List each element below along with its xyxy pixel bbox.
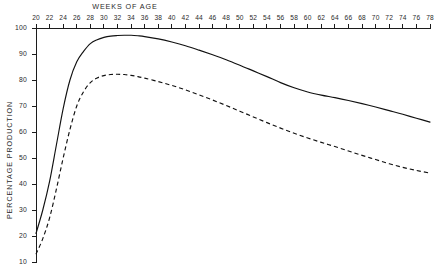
x-tick-label: 76 <box>413 14 421 21</box>
y-tick-label: 20 <box>19 232 27 239</box>
x-tick-label: 64 <box>331 14 339 21</box>
x-tick-label: 66 <box>345 14 353 21</box>
series-path-lower-curve <box>36 74 430 254</box>
x-tick-label: 50 <box>236 14 244 21</box>
x-tick-label: 74 <box>399 14 407 21</box>
y-tick-label: 50 <box>19 154 27 161</box>
production-line-chart: WEEKS OF AGE PERCENTAGE PRODUCTION 20222… <box>0 0 443 268</box>
y-tick-label: 60 <box>19 128 27 135</box>
x-tick-label: 60 <box>304 14 312 21</box>
x-tick-label: 70 <box>372 14 380 21</box>
x-tick-label: 58 <box>290 14 298 21</box>
x-axis-tick-marks <box>36 24 430 29</box>
y-tick-label: 80 <box>19 76 27 83</box>
x-tick-label: 68 <box>358 14 366 21</box>
x-tick-label: 20 <box>32 14 40 21</box>
x-tick-label: 40 <box>168 14 176 21</box>
x-tick-label: 46 <box>209 14 217 21</box>
x-tick-label: 36 <box>141 14 149 21</box>
x-tick-label: 78 <box>426 14 434 21</box>
y-tick-label: 10 <box>19 258 27 265</box>
x-tick-label: 56 <box>277 14 285 21</box>
y-axis-tick-marks <box>32 28 37 262</box>
x-axis-title: WEEKS OF AGE <box>92 2 158 11</box>
x-tick-label: 72 <box>385 14 393 21</box>
x-tick-label: 34 <box>127 14 135 21</box>
x-axis-tick-labels: 2022242628303234363840424446485052545658… <box>32 14 434 21</box>
y-tick-label: 100 <box>15 24 27 31</box>
y-tick-label: 30 <box>19 206 27 213</box>
x-tick-label: 54 <box>263 14 271 21</box>
chart-container: WEEKS OF AGE PERCENTAGE PRODUCTION 20222… <box>0 0 443 268</box>
x-tick-label: 24 <box>59 14 67 21</box>
x-tick-label: 42 <box>182 14 190 21</box>
y-axis-title: PERCENTAGE PRODUCTION <box>5 101 14 219</box>
x-tick-label: 30 <box>100 14 108 21</box>
x-tick-label: 26 <box>73 14 81 21</box>
x-tick-label: 32 <box>114 14 122 21</box>
y-tick-label: 90 <box>19 50 27 57</box>
x-tick-label: 38 <box>154 14 162 21</box>
x-tick-label: 48 <box>222 14 230 21</box>
x-tick-label: 22 <box>46 14 54 21</box>
series-path-upper-curve <box>36 35 430 233</box>
y-tick-label: 40 <box>19 180 27 187</box>
y-tick-label: 70 <box>19 102 27 109</box>
x-tick-label: 44 <box>195 14 203 21</box>
y-axis-tick-labels: 102030405060708090100 <box>15 24 27 265</box>
x-tick-label: 62 <box>317 14 325 21</box>
x-tick-label: 52 <box>250 14 258 21</box>
x-tick-label: 28 <box>86 14 94 21</box>
